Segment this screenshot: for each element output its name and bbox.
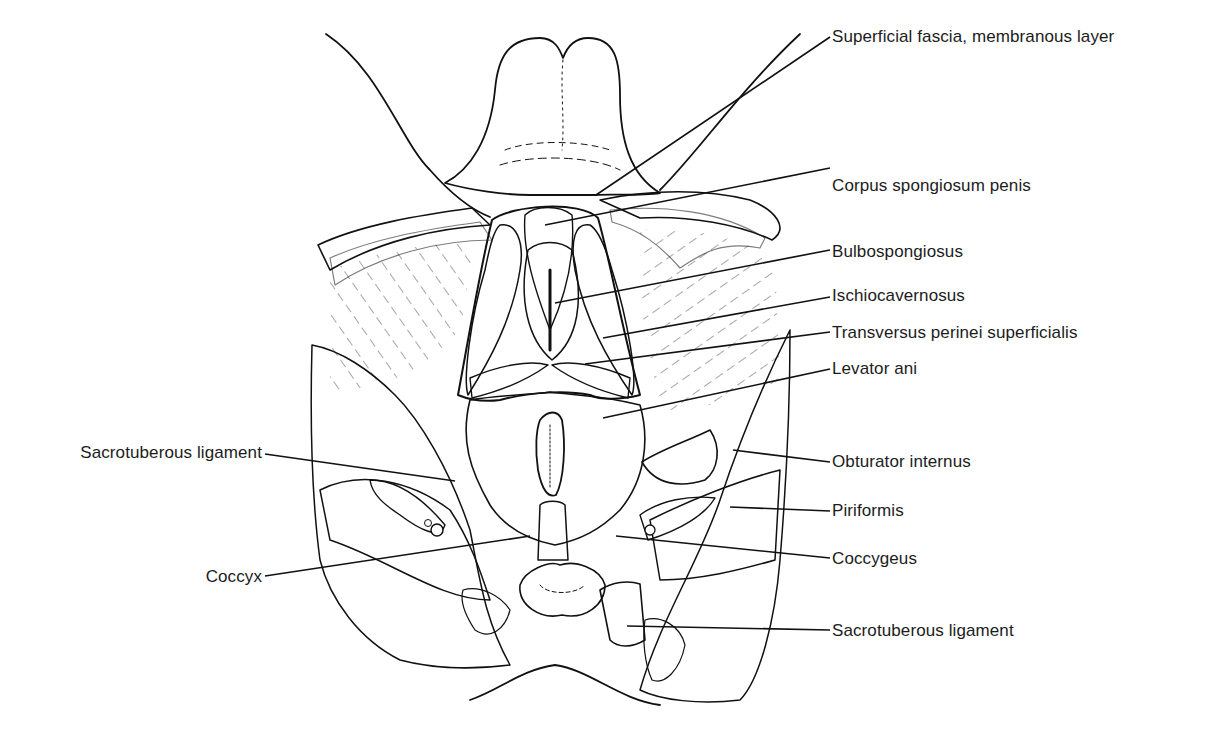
left-gluteus: [311, 345, 510, 668]
label-corpus-spongiosum: Corpus spongiosum penis: [832, 176, 1031, 196]
label-coccyx: Coccyx: [206, 567, 262, 587]
label-ischiocavernosus: Ischiocavernosus: [832, 286, 965, 306]
anatomical-illustration: [0, 0, 1218, 731]
label-superficial-fascia: Superficial fascia, membranous layer: [832, 27, 1114, 47]
leader-piriformis: [730, 507, 830, 511]
label-bulbospongiosus: Bulbospongiosus: [832, 242, 963, 262]
scrotum-outline: [445, 38, 660, 195]
leader-sacrotuberous-right: [627, 626, 830, 630]
label-piriformis: Piriformis: [832, 501, 904, 521]
leader-obturator-internus: [733, 450, 830, 462]
left-ischioanal-fat: [330, 244, 475, 390]
label-sacrotuberous-right: Sacrotuberous ligament: [832, 621, 1014, 641]
leader-coccygeus: [616, 536, 830, 558]
right-thigh-contour: [660, 34, 800, 190]
label-sacrotuberous-left: Sacrotuberous ligament: [80, 443, 262, 463]
leader-sacrotuberous-left: [265, 454, 455, 481]
ischiocavernosus-right: [573, 225, 634, 395]
label-obturator-internus: Obturator internus: [832, 452, 971, 472]
anococcygeal-body: [538, 501, 568, 560]
leader-corpus-spongiosum: [545, 168, 830, 225]
gluteal-cleft: [470, 665, 660, 705]
obturator-internus-strap: [642, 430, 717, 484]
coccyx: [520, 564, 605, 616]
left-thigh-contour: [326, 34, 490, 217]
label-transversus-perinei: Transversus perinei superficialis: [832, 323, 1077, 343]
leader-superficial-fascia: [596, 37, 830, 195]
label-coccygeus: Coccygeus: [832, 549, 917, 569]
label-levator-ani: Levator ani: [832, 359, 917, 379]
right-ischioanal-fat: [640, 229, 780, 410]
sacrotuberous-ligament-right: [600, 582, 645, 646]
